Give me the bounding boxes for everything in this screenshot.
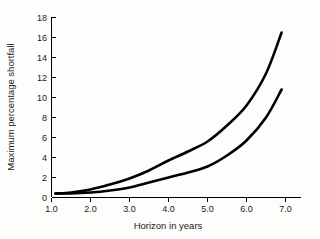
y-axis-title: Maximum percentage shortfall bbox=[5, 43, 16, 170]
y-tick-label-18: 18 bbox=[37, 13, 47, 23]
y-tick-label-16: 16 bbox=[37, 33, 47, 43]
x-tick-label-3: 3.0 bbox=[123, 204, 136, 214]
x-tick-label-2: 2.0 bbox=[84, 204, 97, 214]
x-tick-label-7: 7.0 bbox=[279, 204, 292, 214]
curve-upper bbox=[55, 33, 281, 194]
y-tick-label-8: 8 bbox=[42, 113, 47, 123]
x-tick-label-4: 4.0 bbox=[162, 204, 175, 214]
chart-canvas: 18 16 14 12 10 8 6 4 2 0 1.0 2.0 3.0 4.0… bbox=[0, 0, 320, 239]
y-tick-label-12: 12 bbox=[37, 73, 47, 83]
x-axis-tick-labels: 1.0 2.0 3.0 4.0 5.0 6.0 7.0 bbox=[45, 204, 292, 214]
x-tick-label-5: 5.0 bbox=[201, 204, 214, 214]
plot-area bbox=[52, 17, 302, 198]
y-tick-label-4: 4 bbox=[42, 153, 47, 163]
y-tick-label-6: 6 bbox=[42, 133, 47, 143]
y-axis-tick-labels: 18 16 14 12 10 8 6 4 2 0 bbox=[37, 13, 47, 203]
x-axis-title: Horizon in years bbox=[134, 220, 203, 231]
y-tick-label-14: 14 bbox=[37, 53, 47, 63]
y-tick-label-2: 2 bbox=[42, 173, 47, 183]
x-tick-label-6: 6.0 bbox=[240, 204, 253, 214]
y-axis-ticks bbox=[52, 18, 57, 198]
x-tick-label-1: 1.0 bbox=[45, 204, 58, 214]
chart-figure: 18 16 14 12 10 8 6 4 2 0 1.0 2.0 3.0 4.0… bbox=[0, 0, 320, 239]
y-tick-label-10: 10 bbox=[37, 93, 47, 103]
y-tick-label-0: 0 bbox=[42, 193, 47, 203]
data-series-group bbox=[55, 33, 281, 194]
x-axis-ticks bbox=[52, 198, 286, 203]
